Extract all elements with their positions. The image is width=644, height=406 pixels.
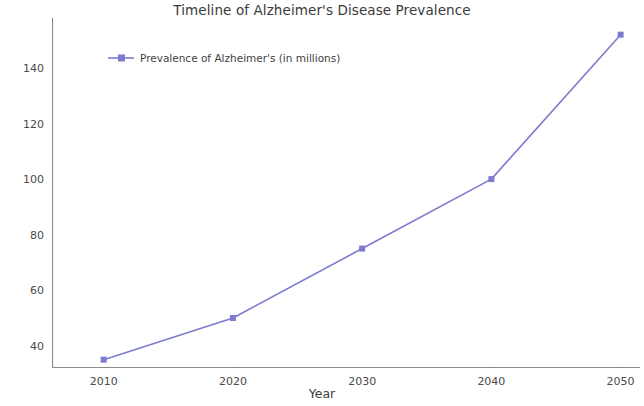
y-tick-label: 80 xyxy=(12,228,44,241)
axis-lines xyxy=(52,18,640,368)
plot-area: 406080100120140 20102020203020402050 Pre… xyxy=(52,18,640,368)
legend-label: Prevalence of Alzheimer's (in millions) xyxy=(140,52,340,64)
y-tick-label: 40 xyxy=(12,339,44,352)
chart-figure: Timeline of Alzheimer's Disease Prevalen… xyxy=(0,0,644,406)
chart-title: Timeline of Alzheimer's Disease Prevalen… xyxy=(0,2,644,18)
chart-legend: Prevalence of Alzheimer's (in millions) xyxy=(108,52,340,64)
y-tick-label: 60 xyxy=(12,284,44,297)
tick-marks xyxy=(52,68,621,368)
data-point-marker xyxy=(618,32,624,38)
data-point-marker xyxy=(101,357,107,363)
data-point-marker xyxy=(359,246,365,252)
y-tick-label: 140 xyxy=(12,62,44,75)
data-line xyxy=(104,35,621,360)
y-tick-label: 100 xyxy=(12,173,44,186)
data-series-group xyxy=(101,32,624,363)
legend-marker-icon xyxy=(108,53,134,63)
chart-canvas xyxy=(52,18,640,368)
data-point-marker xyxy=(488,176,494,182)
x-axis-title: Year xyxy=(0,386,644,401)
y-tick-label: 120 xyxy=(12,117,44,130)
data-point-marker xyxy=(230,315,236,321)
